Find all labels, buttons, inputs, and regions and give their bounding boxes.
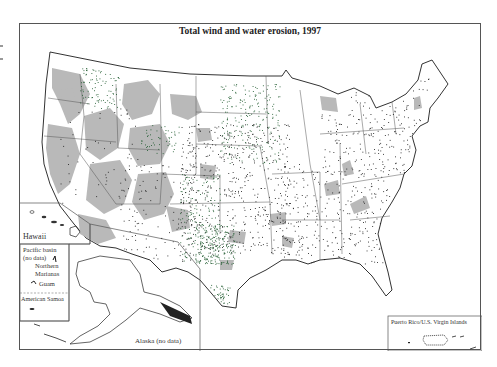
northern-marianas-label-2: Marianas <box>35 270 59 277</box>
american-samoa-label: American Samoa <box>21 295 64 302</box>
pacific-basin-label: Pacific basin <box>23 246 56 253</box>
page-edge-mark <box>0 58 3 60</box>
hawaii-label: Hawaii <box>23 232 46 241</box>
us-map <box>20 24 482 351</box>
puerto-rico-label: Puerto Rico/U.S. Virgin Islands <box>391 319 467 325</box>
map-frame: Total wind and water erosion, 1997 <box>19 23 481 350</box>
pacific-basin-no-data-label: (no data) <box>23 254 46 261</box>
northern-marianas-label-1: Northern <box>35 262 58 269</box>
alaska-label: Alaska (no data) <box>135 337 181 345</box>
page-edge-mark <box>0 45 3 47</box>
guam-label: Guam <box>39 280 55 287</box>
